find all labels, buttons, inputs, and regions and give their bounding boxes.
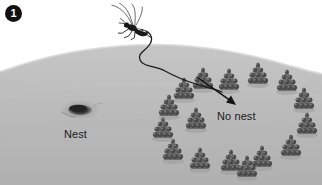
nest-label: Nest xyxy=(64,128,87,140)
pine-cone xyxy=(192,67,214,93)
pine-cone xyxy=(296,112,318,138)
nest-hole xyxy=(60,100,102,120)
scene-objects xyxy=(0,0,322,185)
flight-path xyxy=(139,30,222,92)
pine-cone xyxy=(189,147,211,173)
pine-cone xyxy=(276,69,298,95)
pine-cone xyxy=(173,77,195,103)
pine-cone xyxy=(218,68,240,94)
figure-panel: 1 xyxy=(0,0,322,185)
pine-cone xyxy=(247,62,269,88)
pine-cone xyxy=(185,107,207,133)
pine-cone xyxy=(280,134,302,160)
no-nest-label: No nest xyxy=(217,110,256,122)
